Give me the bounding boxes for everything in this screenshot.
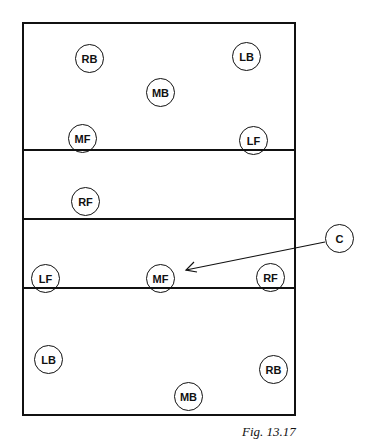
court-line-net (22, 218, 296, 220)
figure-caption: Fig. 13.17 (242, 424, 296, 440)
player-bottom-mb: MB (174, 382, 203, 411)
player-top-rb: RB (75, 44, 104, 73)
player-bottom-rb: RB (259, 355, 288, 384)
player-top-mb: MB (146, 78, 175, 107)
player-top-rf: RF (71, 187, 100, 216)
player-top-mf: MF (68, 124, 97, 153)
player-bottom-mf: MF (146, 264, 175, 293)
callout-c: C (325, 224, 354, 253)
player-bottom-lb: LB (34, 345, 63, 374)
player-bottom-rf: RF (256, 263, 285, 292)
player-top-lf: LF (239, 126, 268, 155)
player-top-lb: LB (232, 42, 261, 71)
volleyball-court-diagram: RB LB MB MF LF RF C LF MF RF LB RB MB Fi… (0, 0, 373, 445)
player-bottom-lf: LF (31, 264, 60, 293)
